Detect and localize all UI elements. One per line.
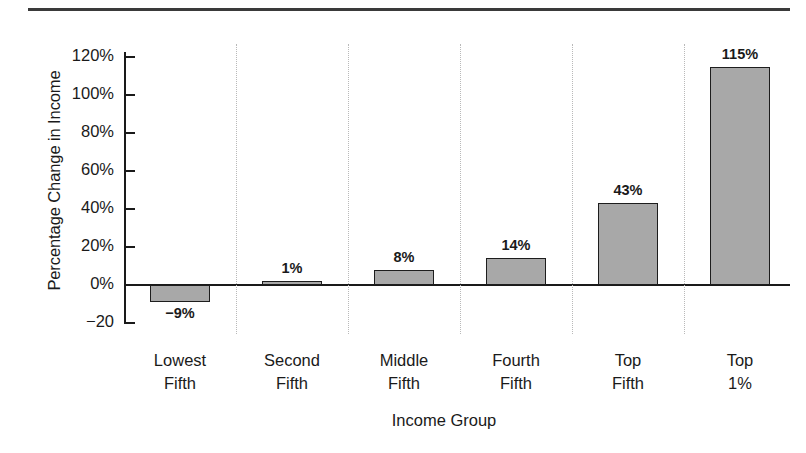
category-label: FourthFifth bbox=[460, 349, 572, 395]
category-label: TopFifth bbox=[572, 349, 684, 395]
bar bbox=[710, 67, 770, 286]
category-label-line: Top bbox=[572, 349, 684, 372]
category-separator-line bbox=[572, 44, 574, 334]
bar bbox=[150, 285, 210, 302]
bar bbox=[374, 270, 434, 285]
y-tick-label-text: 20% bbox=[52, 236, 114, 255]
y-tick-mark bbox=[124, 94, 135, 96]
bar-value-label: 1% bbox=[247, 260, 337, 276]
y-tick-label-text: −20 bbox=[52, 312, 114, 331]
y-tick-label-text: 100% bbox=[52, 84, 114, 103]
y-tick-label-text: 0% bbox=[52, 274, 114, 293]
bar-value-label: −9% bbox=[135, 305, 225, 321]
y-tick-mark bbox=[124, 132, 135, 134]
top-rule-divider bbox=[28, 8, 790, 11]
y-tick-label-text: 60% bbox=[52, 160, 114, 179]
y-tick-label: 0% bbox=[52, 274, 114, 294]
zero-baseline bbox=[124, 284, 790, 286]
y-tick-label: 120% bbox=[52, 46, 114, 66]
category-label-line: Fifth bbox=[460, 372, 572, 395]
y-tick-mark bbox=[124, 246, 135, 248]
category-label: Top1% bbox=[684, 349, 796, 395]
bar bbox=[598, 203, 658, 285]
category-separator-line bbox=[236, 44, 238, 334]
category-label-line: Fifth bbox=[124, 372, 236, 395]
category-label: LowestFifth bbox=[124, 349, 236, 395]
y-tick-label: 60% bbox=[52, 160, 114, 180]
y-tick-label: 20% bbox=[52, 236, 114, 256]
y-tick-label: 40% bbox=[52, 198, 114, 218]
bar bbox=[262, 281, 322, 285]
y-axis-spine bbox=[124, 52, 126, 322]
y-tick-label-text: 120% bbox=[52, 46, 114, 65]
y-tick-label: 100% bbox=[52, 84, 114, 104]
category-label-line: Middle bbox=[348, 349, 460, 372]
category-separator-line bbox=[460, 44, 462, 334]
category-label-line: Fifth bbox=[572, 372, 684, 395]
category-label-line: 1% bbox=[684, 372, 796, 395]
bar-chart-figure: Percentage Change in Income Income Group… bbox=[0, 0, 806, 453]
y-tick-label: 80% bbox=[52, 122, 114, 142]
category-label-line: Lowest bbox=[124, 349, 236, 372]
category-label: MiddleFifth bbox=[348, 349, 460, 395]
bar bbox=[486, 258, 546, 285]
category-label-line: Top bbox=[684, 349, 796, 372]
y-tick-mark bbox=[124, 56, 135, 58]
category-label-line: Fifth bbox=[236, 372, 348, 395]
y-tick-mark bbox=[124, 284, 135, 286]
y-tick-mark bbox=[124, 170, 135, 172]
bar-value-label: 115% bbox=[695, 46, 785, 62]
category-label-line: Second bbox=[236, 349, 348, 372]
x-axis-title: Income Group bbox=[324, 411, 564, 430]
category-separator-line bbox=[684, 44, 686, 334]
y-tick-label-text: 40% bbox=[52, 198, 114, 217]
y-tick-label: −20 bbox=[52, 312, 114, 332]
bar-value-label: 43% bbox=[583, 182, 673, 198]
category-label: SecondFifth bbox=[236, 349, 348, 395]
category-label-line: Fifth bbox=[348, 372, 460, 395]
bar-value-label: 8% bbox=[359, 249, 449, 265]
bar-value-label: 14% bbox=[471, 237, 561, 253]
y-tick-mark bbox=[124, 208, 135, 210]
category-label-line: Fourth bbox=[460, 349, 572, 372]
category-separator-line bbox=[348, 44, 350, 334]
y-tick-mark bbox=[124, 322, 135, 324]
y-tick-label-text: 80% bbox=[52, 122, 114, 141]
